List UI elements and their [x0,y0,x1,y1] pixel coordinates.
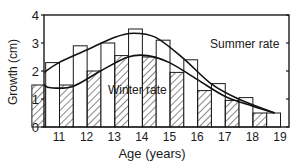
summer-bar [267,113,281,127]
winter-bar [170,72,184,127]
x-tick-label: 15 [163,130,177,144]
x-tick-label: 13 [108,130,122,144]
y-tick-label: 0 [32,120,39,135]
y-tick-label: 4 [32,8,39,23]
y-tick-label: 3 [32,36,39,51]
summer-bar [129,29,143,127]
x-tick-label: 12 [80,130,94,144]
x-tick-label: 19 [273,130,287,144]
x-axis: 111213141516171819 [53,130,287,144]
winter-bar [225,100,239,127]
x-tick-label: 17 [218,130,232,144]
winter-bar [60,85,74,127]
summer-bar [46,63,60,127]
winter-rate-label: Winter rate [108,83,167,97]
x-tick-label: 18 [246,130,260,144]
y-axis-label: Growth (cm) [6,39,20,105]
winter-bar [198,91,212,127]
winter-bar [87,71,101,127]
y-tick-label: 1 [32,92,39,107]
summer-bar [73,46,87,127]
x-tick-label: 16 [190,130,204,144]
chart-svg: 01234 111213141516171819 Age (years) Gro… [0,0,303,168]
y-tick-label: 2 [32,64,39,79]
growth-chart: 01234 111213141516171819 Age (years) Gro… [0,0,303,168]
summer-rate-label: Summer rate [210,37,280,51]
x-axis-label: Age (years) [118,146,185,161]
x-tick-label: 11 [53,130,66,144]
x-tick-label: 14 [135,130,149,144]
winter-bar [253,113,267,127]
